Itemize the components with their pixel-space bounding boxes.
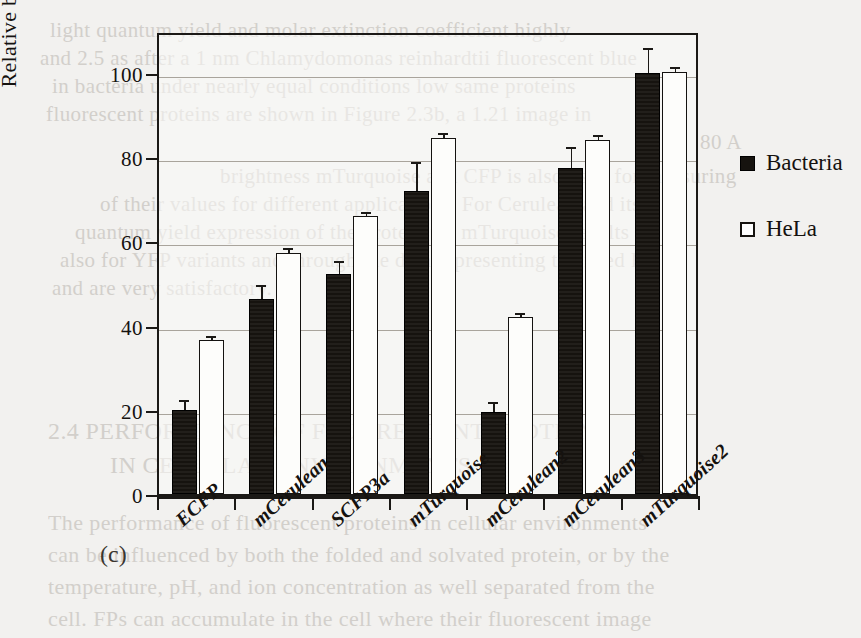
- y-tick-mark: [146, 495, 157, 497]
- y-axis-label: Relative brightness: [0, 0, 22, 150]
- bar-hela-mCerulean3: [585, 140, 610, 494]
- y-tick-label: 0: [91, 484, 143, 509]
- error-bar-cap-hela-mCerulean3: [593, 135, 603, 137]
- error-bar-bacteria-mTurquoise: [416, 164, 418, 191]
- bar-bacteria-mCerulean: [249, 299, 274, 494]
- y-tick-label: 80: [91, 147, 143, 172]
- x-tick-mark: [234, 496, 236, 510]
- error-bar-cap-hela-mCerulean: [283, 248, 293, 250]
- x-tick-mark: [389, 496, 391, 510]
- x-tick-mark: [466, 496, 468, 510]
- error-bar-bacteria-mCerulean3: [571, 149, 573, 168]
- legend: BacteriaHeLa: [740, 150, 843, 282]
- bar-bacteria-mCerulean3: [558, 168, 583, 494]
- error-bar-cap-bacteria-mTurquoise2: [643, 48, 653, 50]
- plot-area: [157, 33, 698, 496]
- error-bar-hela-mTurquoise2: [675, 69, 677, 72]
- error-bar-cap-bacteria-mCerulean3: [566, 147, 576, 149]
- legend-item-hela: HeLa: [740, 216, 843, 242]
- error-bar-hela-mCerulean2: [520, 315, 522, 317]
- legend-swatch-bacteria-icon: [740, 156, 755, 171]
- y-tick-mark: [146, 411, 157, 413]
- bar-hela-mCerulean2: [508, 317, 533, 494]
- bar-bacteria-SCFP3a: [326, 274, 351, 494]
- error-bar-hela-mTurquoise: [443, 135, 445, 138]
- panel-letter: (c): [100, 541, 127, 568]
- legend-item-bacteria: Bacteria: [740, 150, 843, 176]
- gridline: [159, 77, 696, 78]
- error-bar-cap-hela-ECFP: [206, 336, 216, 338]
- legend-label: HeLa: [766, 216, 817, 242]
- error-bar-hela-ECFP: [211, 338, 213, 340]
- y-tick-mark: [146, 242, 157, 244]
- error-bar-cap-bacteria-mCerulean2: [488, 402, 498, 404]
- y-tick-label: 40: [91, 315, 143, 340]
- error-bar-bacteria-ECFP: [184, 402, 186, 410]
- error-bar-hela-mCerulean: [288, 250, 290, 253]
- error-bar-cap-hela-mTurquoise2: [670, 67, 680, 69]
- x-tick-mark: [621, 496, 623, 510]
- error-bar-cap-bacteria-mCerulean: [256, 285, 266, 287]
- error-bar-bacteria-SCFP3a: [339, 263, 341, 274]
- error-bar-hela-SCFP3a: [366, 214, 368, 217]
- bar-bacteria-mTurquoise: [404, 191, 429, 494]
- y-tick-label: 60: [91, 231, 143, 256]
- x-tick-mark: [698, 496, 700, 510]
- y-tick-mark: [146, 327, 157, 329]
- error-bar-bacteria-mCerulean2: [493, 404, 495, 412]
- gridline: [159, 161, 696, 162]
- legend-swatch-hela-icon: [740, 222, 755, 237]
- error-bar-bacteria-mCerulean: [261, 287, 263, 300]
- y-tick-mark: [146, 158, 157, 160]
- error-bar-cap-bacteria-ECFP: [179, 400, 189, 402]
- error-bar-cap-hela-mTurquoise: [438, 133, 448, 135]
- y-tick-label: 100: [91, 63, 143, 88]
- x-tick-mark: [312, 496, 314, 510]
- y-tick-mark: [146, 74, 157, 76]
- error-bar-cap-bacteria-SCFP3a: [334, 261, 344, 263]
- bar-hela-mTurquoise: [431, 138, 456, 494]
- error-bar-cap-hela-mCerulean2: [515, 313, 525, 315]
- bar-hela-SCFP3a: [353, 216, 378, 494]
- error-bar-cap-hela-SCFP3a: [361, 212, 371, 214]
- y-tick-label: 20: [91, 399, 143, 424]
- bar-bacteria-mTurquoise2: [635, 73, 660, 494]
- error-bar-cap-bacteria-mTurquoise: [411, 162, 421, 164]
- figure-panel-c: Relative brightness 020406080100 ECFPmCe…: [0, 0, 861, 638]
- legend-label: Bacteria: [766, 150, 843, 176]
- bar-hela-mTurquoise2: [662, 72, 687, 494]
- x-tick-mark: [543, 496, 545, 510]
- bar-bacteria-ECFP: [172, 410, 197, 494]
- error-bar-bacteria-mTurquoise2: [648, 50, 650, 73]
- error-bar-hela-mCerulean3: [598, 137, 600, 140]
- x-tick-mark: [157, 496, 159, 510]
- bar-hela-ECFP: [199, 340, 224, 494]
- bar-hela-mCerulean: [276, 253, 301, 494]
